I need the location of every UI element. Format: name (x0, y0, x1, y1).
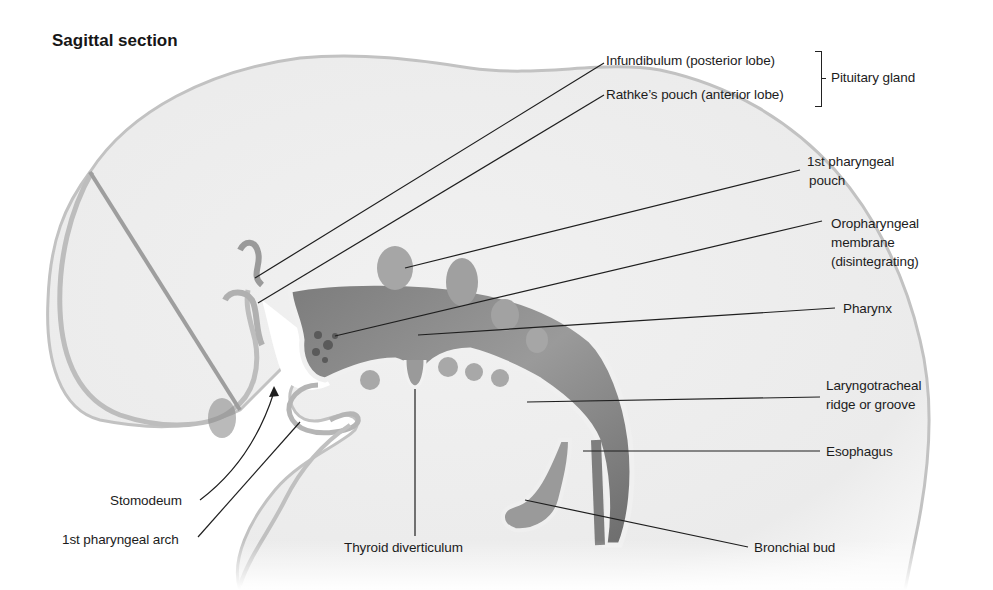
tracheal-tube (596, 440, 600, 545)
ventral-bulge-2 (438, 357, 458, 377)
label-pharynx: Pharynx (843, 299, 892, 318)
pituitary-bracket (815, 51, 822, 107)
ventral-bulge-1 (360, 370, 380, 390)
optic-region (208, 398, 236, 438)
label-pharyngeal-arch: 1st pharyngeal arch (62, 530, 179, 549)
label-oropharyngeal-membrane: Oropharyngeal membrane (disintegrating) (831, 214, 919, 271)
label-pharyngeal-pouch-line2: pouch (807, 171, 894, 190)
label-stomodeum: Stomodeum (110, 491, 182, 510)
label-oro-line2: membrane (831, 233, 919, 252)
label-infundibulum: Infundibulum (posterior lobe) (606, 51, 775, 70)
ventral-bulge-4 (491, 369, 509, 387)
arrow-head-icon (269, 386, 279, 397)
label-pituitary: Pituitary gland (831, 68, 915, 87)
ventral-bulge-3 (465, 363, 483, 381)
thyroid-diverticulum-shape (405, 360, 425, 387)
label-esophagus: Esophagus (826, 442, 893, 461)
pituitary-bracket-tick (821, 78, 826, 79)
label-pharyngeal-pouch-line1: 1st pharyngeal (807, 152, 894, 171)
label-oro-line1: Oropharyngeal (831, 214, 919, 233)
label-laryngo-line1: Laryngotracheal (826, 376, 921, 395)
label-laryngo-line2: ridge or groove (826, 395, 921, 414)
pouch-3 (491, 299, 519, 331)
pouch-2 (446, 258, 478, 306)
label-bronchial-bud: Bronchial bud (754, 538, 835, 557)
label-rathke: Rathke’s pouch (anterior lobe) (606, 85, 784, 104)
label-pharyngeal-pouch: 1st pharyngeal pouch (807, 152, 894, 190)
pouch-1 (377, 246, 413, 290)
label-laryngotracheal: Laryngotracheal ridge or groove (826, 376, 921, 414)
label-oro-line3: (disintegrating) (831, 252, 919, 271)
figure-title: Sagittal section (52, 31, 178, 51)
label-thyroid-diverticulum: Thyroid diverticulum (344, 538, 463, 557)
pouch-4 (526, 327, 548, 353)
